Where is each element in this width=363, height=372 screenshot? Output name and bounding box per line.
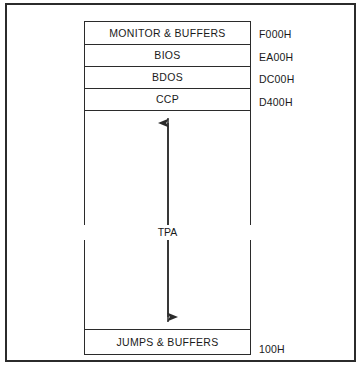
memory-map: MONITOR & BUFFERS BIOS BDOS CCP TPA	[84, 21, 251, 355]
address-label-100: 100H	[259, 344, 285, 355]
figure-frame: MONITOR & BUFFERS BIOS BDOS CCP TPA	[5, 3, 356, 362]
address-label-f000: F000H	[259, 29, 292, 40]
memory-block-jumps: JUMPS & BUFFERS	[84, 329, 251, 355]
address-label-dc00: DC00H	[259, 74, 294, 85]
memory-block-ccp-label: CCP	[156, 94, 179, 105]
memory-block-tpa	[84, 110, 251, 330]
memory-block-bios-label: BIOS	[154, 50, 180, 61]
address-label-d400: D400H	[259, 97, 293, 108]
memory-block-monitor: MONITOR & BUFFERS	[84, 21, 251, 45]
address-label-ea00: EA00H	[259, 52, 293, 63]
memory-block-bdos-label: BDOS	[152, 72, 183, 83]
memory-block-bios: BIOS	[84, 44, 251, 67]
memory-block-bdos: BDOS	[84, 66, 251, 89]
memory-block-monitor-label: MONITOR & BUFFERS	[109, 28, 225, 39]
memory-block-jumps-label: JUMPS & BUFFERS	[117, 337, 219, 348]
memory-block-tpa-label: TPA	[84, 225, 251, 240]
memory-block-ccp: CCP	[84, 88, 251, 111]
